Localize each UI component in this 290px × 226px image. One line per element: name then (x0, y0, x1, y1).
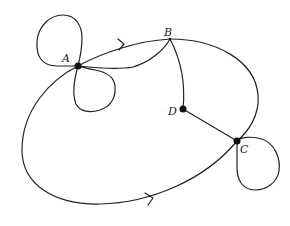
vertex-a (75, 63, 82, 70)
label-a: A (61, 52, 70, 65)
edge-a-c-directed (22, 66, 237, 204)
edge-loop-a-upper (37, 15, 82, 66)
arrow-head-a-c (145, 193, 153, 205)
edge-a-b-directed (78, 39, 170, 66)
label-d: D (167, 105, 177, 118)
vertex-d (180, 106, 187, 113)
edge-loop-a-lower (74, 66, 115, 112)
edge-d-c (183, 109, 237, 141)
label-b: B (163, 26, 172, 39)
graph-diagram: A B C D (0, 0, 290, 226)
edge-b-d (170, 39, 184, 109)
label-c: C (240, 143, 249, 156)
